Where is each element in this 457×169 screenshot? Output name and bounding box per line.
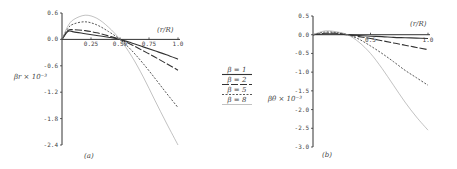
legend-label: β = 2: [227, 76, 247, 84]
y-tick-label: 0.5: [298, 12, 309, 19]
x-tick-label: 0.75: [142, 40, 157, 47]
chart-panel-b: 0.50.0-0.5-1.0-1.5-2.0-2.5-3.00.51.0: [295, 12, 434, 150]
x-tick-label: 1.0: [173, 40, 184, 47]
legend-label: β = 1: [227, 66, 247, 74]
y-tick-label: -3.0: [295, 143, 310, 150]
panel-b-xlabel: (r/R): [410, 20, 427, 28]
y-tick-label: -2.0: [295, 106, 310, 113]
y-tick-label: -2.5: [295, 124, 310, 131]
panel-a-xlabel: (r/R): [157, 26, 174, 34]
panel-b-label: (b): [322, 151, 332, 159]
figure: 0.60.0-0.6-1.2-1.8-2.40.250.500.751.0 0.…: [0, 0, 457, 169]
y-tick-label: -0.6: [44, 62, 59, 69]
panel-a-label: (a): [84, 152, 94, 160]
y-tick-label: -1.0: [295, 68, 310, 75]
y-tick-label: -0.5: [295, 49, 310, 56]
legend-label: β = 8: [227, 96, 247, 104]
series-line: [62, 30, 178, 71]
x-tick-label: 1.0: [423, 36, 434, 43]
y-tick-label: 0.0: [298, 31, 309, 38]
x-tick-label: 0.25: [84, 40, 99, 47]
y-tick-label: -2.4: [44, 141, 59, 148]
panel-b-ylabel: βθ × 10⁻³: [267, 95, 302, 103]
panel-a-ylabel: βr × 10⁻³: [13, 73, 47, 81]
series-line: [62, 15, 178, 145]
legend: β = 1β = 2β = 5β = 8: [222, 66, 252, 105]
series-line: [62, 22, 178, 108]
y-tick-label: 0.0: [47, 35, 58, 42]
y-tick-label: -1.5: [295, 87, 310, 94]
legend-label: β = 5: [227, 86, 247, 94]
y-tick-label: -1.8: [44, 115, 59, 122]
y-tick-label: -1.2: [44, 88, 59, 95]
y-tick-label: 0.6: [47, 9, 58, 16]
